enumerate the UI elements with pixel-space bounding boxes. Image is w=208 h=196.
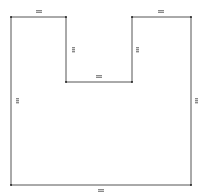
vertex-marker (190, 184, 192, 186)
dimension-label-top-left (36, 10, 42, 13)
floor-plan-svg (0, 0, 208, 196)
vertex-markers (10, 16, 192, 186)
dimension-label-inner-left (72, 47, 75, 53)
vertex-marker (65, 81, 67, 83)
vertex-marker (10, 16, 12, 18)
vertex-marker (65, 16, 67, 18)
dimension-label-left (16, 98, 19, 104)
dimension-label-inner-bottom (96, 75, 102, 78)
vertex-marker (131, 81, 133, 83)
dimension-label-right (195, 98, 198, 104)
room-outline (11, 17, 191, 185)
vertex-marker (10, 184, 12, 186)
vertex-marker (131, 16, 133, 18)
dimension-label-top-right (158, 10, 164, 13)
vertex-marker (190, 16, 192, 18)
dimension-label-inner-right (136, 47, 139, 53)
dimension-label-bottom (98, 189, 104, 192)
